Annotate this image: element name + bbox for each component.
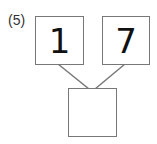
top-right-number-box: 7 [102, 16, 150, 65]
top-left-number-box: 1 [35, 16, 84, 65]
top-right-number: 7 [115, 24, 137, 58]
answer-box[interactable] [68, 88, 117, 137]
top-left-number: 1 [49, 24, 71, 58]
